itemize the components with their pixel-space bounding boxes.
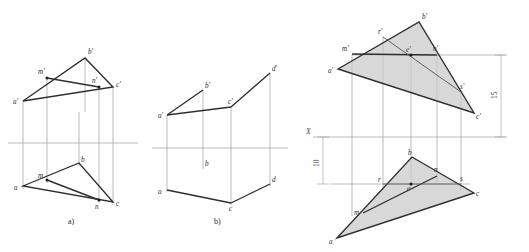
label-c-s-prime: s' <box>460 83 465 91</box>
label-m-prime: m' <box>38 68 45 76</box>
diagram-b: a' b' c' d' a b c d b) <box>152 65 288 226</box>
label-c-m: m <box>354 209 359 217</box>
label-c-prime: c' <box>116 81 121 89</box>
label-b-d-prime: d' <box>272 65 278 73</box>
label-b-prime: b' <box>88 48 94 56</box>
label-m: m <box>38 172 43 180</box>
label-c-s: s <box>460 175 463 183</box>
projection-lines-b <box>167 73 270 205</box>
dimension-15-value: 15 <box>490 91 499 99</box>
label-c-e-prime: e' <box>406 46 411 54</box>
label-a-prime: a' <box>13 98 19 106</box>
label-c-b-prime: b' <box>422 13 428 21</box>
label-c-a: a <box>329 238 333 246</box>
caption-b: b) <box>214 217 221 226</box>
label-c-r: r <box>378 176 381 184</box>
label-b-a-prime: a' <box>158 112 164 120</box>
upper-projection-a <box>23 58 113 101</box>
label-c-a-prime: a' <box>328 67 334 75</box>
figure-canvas: a' b' c' m' n' a b c m n a) a' b' <box>0 0 529 252</box>
label-n: n <box>95 203 99 211</box>
label-c-r-prime: r' <box>378 28 383 36</box>
label-b-b-prime: b' <box>205 82 211 90</box>
label-c-n: n <box>434 166 438 174</box>
label-c-m-prime: m' <box>342 45 349 53</box>
label-a: a <box>14 184 18 192</box>
diagram-a: a' b' c' m' n' a b c m n a) <box>8 48 138 226</box>
label-b-c: c <box>229 205 233 213</box>
label-n-prime: n' <box>92 77 98 85</box>
caption-a: a) <box>68 217 75 226</box>
projection-lines-a <box>23 58 113 205</box>
label-b: b <box>81 156 85 164</box>
label-b-c-prime: c' <box>228 98 233 106</box>
label-b-a: a <box>158 188 162 196</box>
axis-label-x: X <box>305 127 311 136</box>
upper-triangle-fill <box>338 22 474 113</box>
dimension-10-value: 10 <box>312 159 321 167</box>
label-b-b: b <box>205 160 209 168</box>
lower-projection-b <box>167 184 270 203</box>
label-c: c <box>116 200 120 208</box>
lower-triangle-fill <box>337 157 474 238</box>
label-b-d: d <box>272 176 276 184</box>
diagram-c: X a' b' c' m' n' r' s' e' a b <box>305 13 507 246</box>
dimension-15: 15 <box>490 55 507 137</box>
label-c-n-prime: n' <box>433 45 439 53</box>
label-c-c-prime: c' <box>476 113 481 121</box>
label-c-c: c <box>476 190 480 198</box>
label-c-b: b <box>408 149 412 157</box>
lower-projection-a <box>23 163 113 202</box>
dimension-10: 10 <box>312 137 329 184</box>
upper-projection-b <box>167 73 270 115</box>
